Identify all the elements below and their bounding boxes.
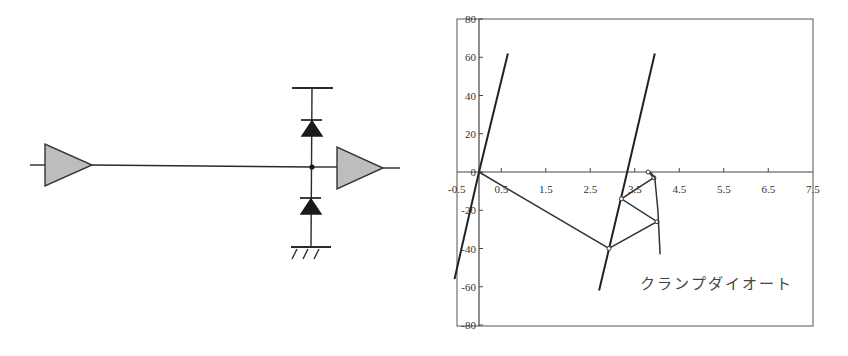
driver-buffer-icon xyxy=(45,144,92,186)
x-tick-label: -0.5 xyxy=(448,183,466,195)
y-tick-label: 40 xyxy=(465,90,477,102)
y-tick-label: -60 xyxy=(461,281,476,293)
series-clamp-diode-characteristic xyxy=(650,172,660,254)
clamp-diode-annotation: クランプダイオート xyxy=(640,276,793,292)
receiver-buffer-icon xyxy=(337,147,383,189)
x-tick-label: 5.5 xyxy=(717,183,731,195)
bounce-point-marker xyxy=(619,197,623,201)
bounce-point-marker xyxy=(607,247,611,251)
y-tick-label: -40 xyxy=(461,243,476,255)
x-tick-label: 4.5 xyxy=(672,183,686,195)
x-tick-label: 6.5 xyxy=(761,183,775,195)
x-tick-label: 7.5 xyxy=(806,183,820,195)
upper-clamp-diode-icon xyxy=(301,120,322,136)
chart: 806040200-20-40-60-80 -0.50.51.52.53.54.… xyxy=(448,13,820,331)
y-tick-label: -80 xyxy=(461,319,476,331)
lower-clamp-diode-icon xyxy=(300,198,321,214)
transmission-line xyxy=(92,165,312,167)
y-tick-label: 0 xyxy=(471,166,477,178)
x-tick-label: 2.5 xyxy=(583,183,597,195)
series-driver-load-line-low xyxy=(455,53,508,279)
junction-dot-icon xyxy=(309,164,314,169)
y-tick-label: 80 xyxy=(465,13,477,25)
figure: 806040200-20-40-60-80 -0.50.51.52.53.54.… xyxy=(0,0,848,356)
y-tick-label: 20 xyxy=(465,128,477,140)
x-tick-label: 1.5 xyxy=(539,183,553,195)
circuit-schematic xyxy=(30,88,400,259)
y-tick-label: 60 xyxy=(465,51,477,63)
ground-icon xyxy=(291,247,331,259)
bounce-point-marker xyxy=(646,170,650,174)
